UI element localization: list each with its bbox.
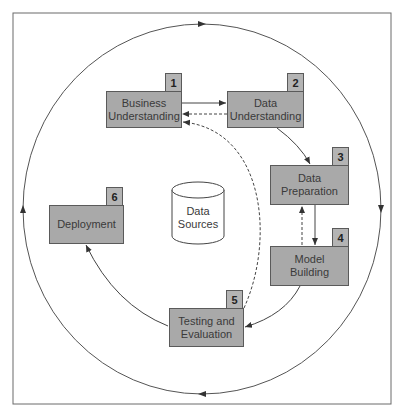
data-sources-label: Data Sources	[172, 205, 224, 231]
phase-6-label: Deployment	[57, 218, 116, 231]
cycle-arrow-left	[20, 205, 26, 213]
arrow-5-to-6	[86, 245, 168, 326]
phase-testing-evaluation[interactable]: Testing and Evaluation	[169, 308, 244, 347]
phase-model-building[interactable]: Model Building	[270, 246, 349, 286]
phase-3-label: Data Preparation	[281, 172, 338, 198]
phase-5-label: Testing and Evaluation	[178, 315, 234, 341]
phase-data-understanding[interactable]: Data Understanding	[227, 91, 304, 128]
cycle-arrow-bottom	[198, 391, 206, 397]
phase-6-badge: 6	[106, 187, 123, 206]
phase-2-label: Data Understanding	[230, 97, 302, 123]
phase-data-preparation[interactable]: Data Preparation	[270, 165, 349, 205]
cycle-arrow-top	[198, 21, 206, 27]
phase-1-badge: 1	[165, 73, 182, 92]
phase-3-badge: 3	[332, 147, 349, 166]
phase-business-understanding[interactable]: Business Understanding	[106, 91, 182, 128]
phase-4-badge: 4	[332, 228, 349, 247]
arrow-4-to-5	[245, 286, 300, 327]
phase-5-badge: 5	[226, 290, 243, 309]
phase-deployment[interactable]: Deployment	[49, 205, 124, 244]
phase-4-label: Model Building	[290, 253, 329, 279]
arrow-2-to-3	[277, 128, 310, 164]
phase-1-label: Business Understanding	[108, 97, 180, 123]
cycle-arrow-right	[378, 205, 384, 213]
phase-2-badge: 2	[287, 73, 304, 92]
